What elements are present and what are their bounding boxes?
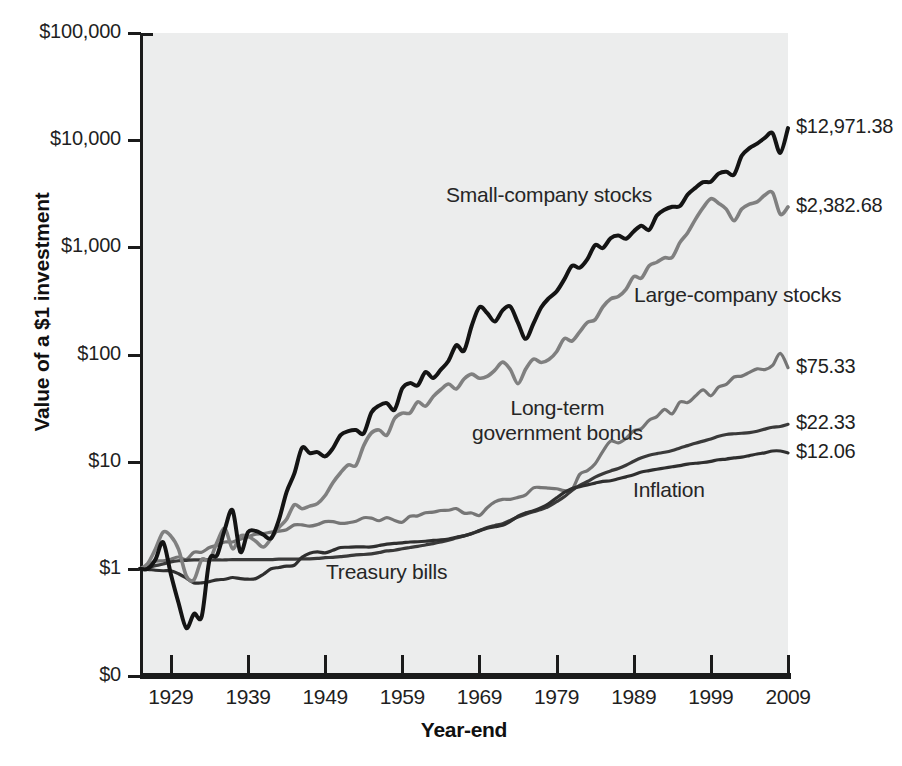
y-axis-title: Value of a $1 investment: [30, 162, 54, 462]
y-axis-tick-label: $1: [99, 556, 121, 579]
y-axis-tick-label: $10,000: [50, 127, 121, 150]
series-line-inflation: [140, 451, 788, 583]
annotation-small-company-stocks: Small-company stocks: [446, 183, 652, 208]
annotation-large-company-stocks: Large-company stocks: [634, 283, 841, 308]
annotation-long-term-government-bonds: Long-term government bonds: [472, 396, 643, 446]
series-curves: [140, 33, 788, 676]
annotation-inflation: Inflation: [633, 478, 705, 503]
end-value-label: $12.06: [796, 440, 855, 463]
end-value-label: $12,971.38: [796, 115, 893, 138]
end-value-label: $2,382.68: [796, 194, 882, 217]
investment-growth-chart: $100,000$10,000$1,000$100$10$1$0 Value o…: [0, 0, 902, 766]
end-value-label: $22.33: [796, 411, 855, 434]
y-axis-tick-label: $10: [88, 449, 121, 472]
x-axis-title: Year-end: [140, 718, 788, 742]
end-value-label: $75.33: [796, 355, 855, 378]
x-axis-tick-label: 2009: [743, 685, 833, 709]
y-axis-tick-label: $1,000: [61, 234, 121, 257]
y-axis-tick-label: $100,000: [39, 20, 121, 43]
y-axis-tick-label: $100: [77, 342, 121, 365]
annotation-treasury-bills: Treasury bills: [326, 560, 447, 585]
y-axis-tick-label: $0: [99, 663, 121, 686]
